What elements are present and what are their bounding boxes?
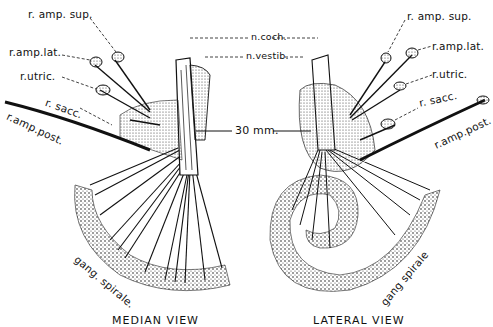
label-lateral-r-amp-sup: r. amp. sup. (407, 10, 472, 22)
label-median-r-amp-lat: r.amp.lat. (9, 46, 61, 58)
label-lateral-r-amp-lat: r.amp.lat. (432, 40, 484, 52)
scale-bar-label: 30 mm. (235, 124, 279, 137)
label-n-vestib: n.vestib. (246, 50, 289, 61)
label-median-r-utric: r.utric. (20, 70, 55, 82)
label-n-coch: n.coch. (251, 31, 287, 42)
label-median-r-amp-sup: r. amp. sup. (28, 8, 93, 20)
median-view-drawing (5, 52, 230, 291)
caption-median-view: MEDIAN VIEW (112, 314, 199, 327)
leader-lines (62, 18, 432, 125)
lateral-view-drawing (270, 48, 489, 291)
label-lateral-r-utric: r.utric. (432, 68, 467, 80)
caption-lateral-view: LATERAL VIEW (313, 314, 405, 327)
